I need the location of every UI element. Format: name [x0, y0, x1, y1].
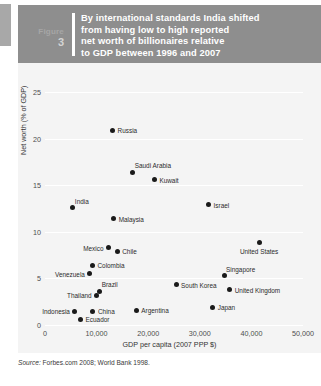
- data-point: [134, 308, 139, 313]
- figure-title-line-3: net worth of billionaires relative: [81, 36, 317, 48]
- data-point-label: Argentina: [141, 307, 168, 314]
- data-point: [87, 271, 92, 276]
- data-point-label: Mexico: [83, 244, 103, 251]
- y-axis-tick-label: 0: [37, 321, 41, 330]
- data-point: [130, 170, 135, 175]
- data-point: [111, 216, 116, 221]
- data-point-label: Ecuador: [86, 316, 110, 323]
- data-point: [78, 317, 83, 322]
- data-point-label: Kuwait: [159, 176, 178, 183]
- y-axis-tick-label: 15: [33, 181, 41, 190]
- figure-page: Figure 3 By international standards Indi…: [0, 0, 321, 386]
- y-axis-title: Net worth (% of GDP): [19, 86, 28, 156]
- gridline: [45, 232, 303, 233]
- gridline: [45, 325, 303, 326]
- y-axis-tick-label: 5: [37, 274, 41, 283]
- source-text: Forbes.com 2008; World Bank 1998.: [41, 359, 150, 366]
- x-axis-title: GDP per capita (2007 PPP $): [18, 340, 321, 349]
- page-edge-block: [0, 4, 11, 46]
- figure-title: By international standards India shifted…: [81, 13, 317, 59]
- x-axis-tick-label: 30,000: [189, 329, 211, 338]
- data-point: [210, 305, 215, 310]
- data-point: [94, 293, 99, 298]
- x-axis-tick-label: 10,000: [86, 329, 108, 338]
- data-point-label: Brazil: [102, 281, 118, 288]
- y-axis-tick-label: 10: [33, 227, 41, 236]
- data-point-label: Thailand: [67, 292, 92, 299]
- figure-title-line-4: to GDP between 1996 and 2007: [81, 48, 317, 60]
- data-point: [106, 245, 111, 250]
- data-point: [174, 282, 179, 287]
- data-point-label: Malaysia: [119, 215, 144, 222]
- figure-title-line-1: By international standards India shifted: [81, 13, 317, 25]
- data-point: [90, 309, 95, 314]
- scatter-plot: 0510152025010,00020,00030,00040,00050,00…: [45, 92, 303, 325]
- data-point-label: United States: [240, 248, 278, 255]
- x-axis-tick-label: 50,000: [292, 329, 314, 338]
- data-point-label: India: [75, 198, 89, 205]
- data-point: [110, 128, 115, 133]
- data-point: [227, 287, 232, 292]
- data-point-label: United Kingdom: [235, 286, 280, 293]
- figure-title-line-2: from having low to high reported: [81, 25, 317, 37]
- data-point-label: Indonesia: [42, 308, 70, 315]
- figure-number: 3: [24, 37, 64, 48]
- data-point: [70, 205, 75, 210]
- gridline: [45, 92, 303, 93]
- data-point-label: Russia: [118, 127, 138, 134]
- y-axis-tick-label: 25: [33, 88, 41, 97]
- data-point-label: Singapore: [226, 266, 255, 273]
- source-note: Source: Forbes.com 2008; World Bank 1998…: [18, 359, 150, 366]
- data-point: [222, 273, 227, 278]
- data-point: [90, 263, 95, 268]
- gridline: [45, 139, 303, 140]
- x-axis-tick-label: 20,000: [137, 329, 159, 338]
- data-point: [257, 240, 262, 245]
- data-point-label: Venezuela: [55, 270, 85, 277]
- data-point: [206, 202, 211, 207]
- data-point-label: Chile: [122, 248, 137, 255]
- data-point-label: Japan: [218, 304, 235, 311]
- data-point-label: Saudi Arabia: [135, 162, 171, 169]
- banner-divider: [72, 13, 75, 56]
- x-axis-tick-label: 40,000: [240, 329, 262, 338]
- data-point-label: South Korea: [181, 281, 217, 288]
- chart-area: Net worth (% of GDP) 0510152025010,00020…: [18, 63, 321, 353]
- source-prefix: Source:: [18, 359, 41, 366]
- data-point-label: China: [98, 308, 115, 315]
- data-point: [152, 177, 157, 182]
- gridline: [45, 185, 303, 186]
- x-axis-tick-label: 0: [43, 329, 47, 338]
- y-axis-tick-label: 20: [33, 134, 41, 143]
- data-point: [115, 249, 120, 254]
- figure-banner: Figure 3 By international standards Indi…: [18, 5, 321, 63]
- gridline: [45, 278, 303, 279]
- data-point-label: Colombia: [97, 262, 124, 269]
- data-point-label: Israel: [214, 201, 230, 208]
- data-point: [72, 309, 77, 314]
